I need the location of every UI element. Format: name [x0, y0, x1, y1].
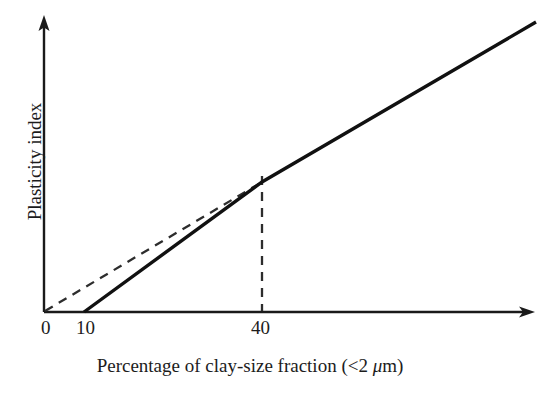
plasticity-index-chart: 0 10 40 Percentage of clay-size fraction…: [0, 0, 559, 396]
series-activity-line: [84, 22, 536, 312]
x-axis-title: Percentage of clay-size fraction (<2 μm): [0, 355, 500, 377]
x-axis-title-prefix: Percentage of clay-size fraction (<2: [97, 355, 373, 376]
x-axis-title-mu-symbol: μ: [373, 355, 383, 376]
series-extrapolated-secant: [45, 182, 262, 311]
x-tick-label-0: 0: [41, 318, 51, 337]
x-tick-label-40: 40: [251, 318, 270, 337]
y-axis-title: Plasticity index: [25, 82, 44, 242]
x-tick-label-10: 10: [76, 318, 95, 337]
x-axis-title-suffix: m): [382, 355, 403, 376]
